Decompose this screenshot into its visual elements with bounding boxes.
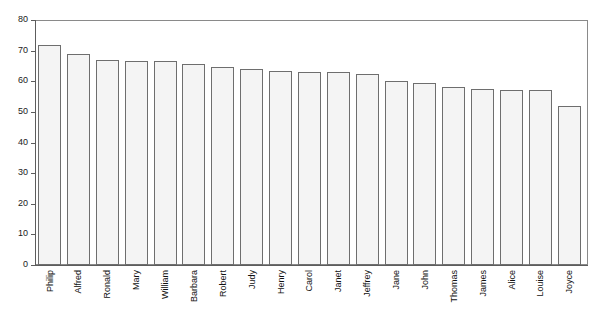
x-axis-label: Alfred	[74, 270, 83, 294]
bar-slot	[327, 20, 350, 265]
x-label-slot: Philip	[38, 266, 61, 333]
x-label-slot: Henry	[269, 266, 292, 333]
y-axis-tick: 80	[0, 20, 35, 21]
bar-slot	[269, 20, 292, 265]
x-label-slot: Robert	[211, 266, 234, 333]
bar-slot	[154, 20, 177, 265]
bar	[269, 71, 292, 265]
y-tick-label: 20	[18, 197, 28, 210]
y-tick-label: 60	[18, 74, 28, 87]
x-axis-label: Judy	[247, 270, 256, 289]
x-label-slot: William	[154, 266, 177, 333]
x-label-slot: John	[413, 266, 436, 333]
x-axis-label: Jeffrey	[363, 270, 372, 297]
x-label-slot: James	[471, 266, 494, 333]
x-axis-label: Janet	[334, 270, 343, 292]
bar-slot	[125, 20, 148, 265]
x-label-slot: Thomas	[442, 266, 465, 333]
bar	[327, 72, 350, 265]
y-axis-tick: 20	[0, 204, 35, 205]
x-axis-label: Philip	[45, 270, 54, 292]
x-axis-label: Joyce	[565, 270, 574, 294]
x-label-slot: Mary	[125, 266, 148, 333]
bar-slot	[529, 20, 552, 265]
x-axis-label: Mary	[132, 270, 141, 290]
y-axis-tick: 50	[0, 112, 35, 113]
x-axis-label: James	[478, 270, 487, 297]
bar-slot	[558, 20, 581, 265]
x-label-slot: Janet	[327, 266, 350, 333]
bar	[240, 69, 263, 265]
bar	[558, 106, 581, 265]
bar-slot	[38, 20, 61, 265]
bar	[298, 72, 321, 265]
x-axis-label: John	[420, 270, 429, 290]
bar	[154, 61, 177, 265]
y-tick-label: 0	[23, 258, 28, 271]
bar	[385, 81, 408, 265]
x-label-slot: Alfred	[67, 266, 90, 333]
x-label-slot: Ronald	[96, 266, 119, 333]
y-tick-label: 40	[18, 136, 28, 149]
bar-chart: 01020304050607080 PhilipAlfredRonaldMary…	[0, 0, 600, 333]
x-label-slot: Barbara	[182, 266, 205, 333]
bar-slot	[471, 20, 494, 265]
bar-slot	[182, 20, 205, 265]
bar	[442, 87, 465, 265]
bar	[413, 83, 436, 265]
x-axis-label: Carol	[305, 270, 314, 292]
bar	[182, 64, 205, 265]
x-label-slot: Louise	[529, 266, 552, 333]
bar	[211, 67, 234, 265]
y-tick-label: 70	[18, 44, 28, 57]
bar-slot	[413, 20, 436, 265]
x-axis-label: Alice	[507, 270, 516, 290]
x-axis-label: Henry	[276, 270, 285, 294]
bar	[38, 45, 61, 266]
bar	[500, 90, 523, 265]
bar-slot	[211, 20, 234, 265]
bar	[125, 61, 148, 265]
x-axis-label: Ronald	[103, 270, 112, 299]
y-tick-label: 10	[18, 227, 28, 240]
x-label-slot: Carol	[298, 266, 321, 333]
bar	[96, 60, 119, 265]
y-tick-label: 30	[18, 166, 28, 179]
x-label-slot: Alice	[500, 266, 523, 333]
bar-slot	[298, 20, 321, 265]
x-label-slot: Joyce	[558, 266, 581, 333]
bar-slot	[442, 20, 465, 265]
x-axis-labels: PhilipAlfredRonaldMaryWilliamBarbaraRobe…	[35, 266, 588, 333]
x-axis-label: Jane	[392, 270, 401, 290]
y-axis-tick: 40	[0, 143, 35, 144]
x-axis-label: Robert	[218, 270, 227, 297]
x-axis-label: Barbara	[189, 270, 198, 302]
y-axis-tick: 70	[0, 51, 35, 52]
x-label-slot: Judy	[240, 266, 263, 333]
bar-slot	[356, 20, 379, 265]
bar-slot	[500, 20, 523, 265]
x-label-slot: Jane	[385, 266, 408, 333]
bar-slot	[385, 20, 408, 265]
y-tick-label: 50	[18, 105, 28, 118]
y-axis-tick: 60	[0, 81, 35, 82]
y-tick-label: 80	[18, 13, 28, 26]
x-axis-label: Louise	[536, 270, 545, 297]
y-axis-tick: 30	[0, 173, 35, 174]
bar	[67, 54, 90, 265]
bar-slot	[240, 20, 263, 265]
bar	[529, 90, 552, 265]
bar	[471, 89, 494, 265]
x-axis-label: Thomas	[449, 270, 458, 303]
y-axis-tick: 0	[0, 265, 35, 266]
bar	[356, 74, 379, 265]
x-axis-label: William	[161, 270, 170, 299]
y-axis-tick: 10	[0, 234, 35, 235]
bar-slot	[67, 20, 90, 265]
bars-layer	[35, 20, 588, 265]
bar-slot	[96, 20, 119, 265]
x-label-slot: Jeffrey	[356, 266, 379, 333]
